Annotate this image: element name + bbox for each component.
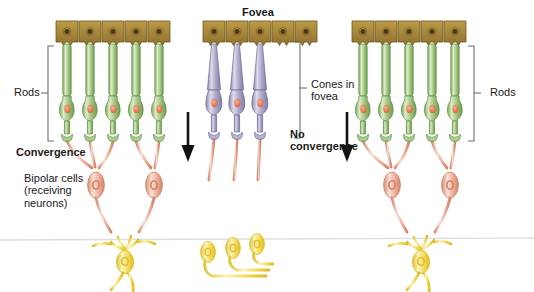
label-rods-right: Rods — [490, 86, 516, 98]
ganglion-cell-right — [389, 236, 451, 292]
label-bipolar-cells: Bipolar cells (receiving neurons) — [24, 172, 83, 209]
ganglion-cell-left — [93, 236, 155, 292]
rod-photoreceptors-left — [59, 44, 166, 141]
label-no-convergence: No convergence — [290, 128, 358, 153]
cones-bracket — [294, 42, 300, 138]
pigment-epithelium-right — [352, 21, 466, 46]
label-fovea-title: Fovea — [242, 6, 274, 18]
label-convergence: Convergence — [16, 146, 86, 158]
retina-baseline — [0, 238, 534, 240]
bipolar-cells-right — [363, 141, 455, 168]
rods-bracket-left — [48, 46, 54, 141]
bipolar-soma-left — [88, 172, 163, 232]
cone-photoreceptors-center — [206, 44, 268, 139]
label-cones-in-fovea: Cones in fovea — [311, 78, 354, 103]
group-right-periphery — [352, 21, 481, 292]
diagram-canvas: Rods Fovea Convergence Bipolar cells (re… — [0, 0, 534, 292]
flow-arrow-left — [182, 112, 195, 162]
bipolar-soma-right — [384, 172, 459, 232]
rods-bracket-right — [468, 46, 474, 141]
ganglion-cells-center — [201, 180, 273, 276]
pigment-epithelium-left — [56, 21, 170, 46]
label-rods-left: Rods — [14, 86, 40, 98]
bipolar-cells-center — [209, 139, 260, 180]
rod-photoreceptors-right — [355, 44, 462, 141]
